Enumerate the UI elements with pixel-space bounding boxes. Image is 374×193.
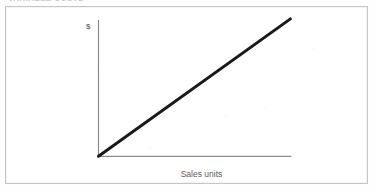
chart-plot-area (6, 7, 367, 183)
variable-cost-line (98, 19, 290, 156)
figure-frame: $ Sales units (5, 6, 368, 184)
x-axis-label: Sales units (104, 169, 299, 179)
cropped-heading-text: VARIABLE COSTS (8, 0, 158, 2)
variable-cost-line-chart (6, 7, 367, 183)
y-axis-label: $ (86, 22, 90, 31)
scanned-page: VARIABLE COSTS $ Sales units (0, 0, 374, 193)
